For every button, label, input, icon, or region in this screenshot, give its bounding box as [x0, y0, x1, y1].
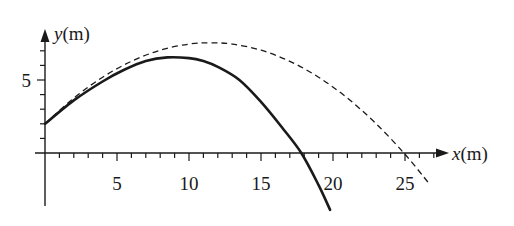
x-tick-label: 20	[324, 173, 343, 194]
x-axis-arrow-icon	[436, 149, 449, 158]
y-axis-ticks: 5	[22, 51, 46, 139]
x-tick-label: 10	[180, 173, 199, 194]
trajectory-chart: 510152025 5 y(m) x(m)	[0, 0, 514, 226]
y-axis-arrow-icon	[41, 29, 50, 42]
x-axis-ticks: 510152025	[59, 153, 433, 194]
x-axis-label: x(m)	[451, 143, 488, 165]
x-tick-label: 25	[396, 173, 415, 194]
x-tick-label: 15	[252, 173, 271, 194]
dashed-trajectory-curve	[45, 43, 428, 182]
y-tick-label: 5	[22, 70, 32, 91]
x-tick-label: 5	[112, 173, 122, 194]
y-axis-label: y(m)	[52, 23, 90, 45]
